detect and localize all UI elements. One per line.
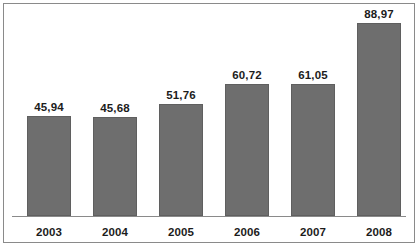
category-label: 2007 <box>280 226 346 238</box>
category-labels-layer: 200320042005200620072008 <box>4 4 414 242</box>
category-label-slot: 2008 <box>346 226 412 238</box>
category-label: 2008 <box>346 226 412 238</box>
category-label-slot: 2005 <box>148 226 214 238</box>
category-label-slot: 2004 <box>82 226 148 238</box>
category-label: 2004 <box>82 226 148 238</box>
plot-area: 45,9445,6851,7660,7261,0588,97 200320042… <box>4 4 414 242</box>
category-label: 2005 <box>148 226 214 238</box>
bar-chart: 45,9445,6851,7660,7261,0588,97 200320042… <box>0 0 418 248</box>
category-label: 2003 <box>16 226 82 238</box>
category-label-slot: 2006 <box>214 226 280 238</box>
category-label-slot: 2007 <box>280 226 346 238</box>
category-label: 2006 <box>214 226 280 238</box>
category-label-slot: 2003 <box>16 226 82 238</box>
